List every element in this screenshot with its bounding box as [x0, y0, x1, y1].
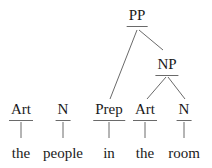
node-pp: PP [127, 7, 148, 27]
node-n2: N [177, 101, 192, 121]
node-n2-label: N [177, 101, 192, 121]
node-np-label: NP [155, 56, 178, 76]
node-n1: N [56, 101, 71, 121]
word-in: in [103, 145, 115, 161]
node-art2-label: Art [133, 101, 157, 121]
node-art1-label: Art [9, 101, 33, 121]
word-room: room [168, 145, 200, 161]
edge-pp-np [139, 30, 163, 50]
node-prep-label: Prep [93, 101, 125, 121]
word-the-1: the [12, 145, 30, 161]
edge-np-art2 [147, 77, 166, 99]
node-pp-label: PP [127, 7, 148, 27]
tree-edges [0, 0, 212, 168]
word-the-2: the [136, 145, 154, 161]
edge-pp-prep [110, 30, 137, 99]
node-prep: Prep [93, 101, 125, 121]
node-n1-label: N [56, 101, 71, 121]
node-art2: Art [133, 101, 157, 121]
node-np: NP [155, 56, 178, 76]
edge-np-n2 [168, 77, 185, 99]
word-people: people [43, 145, 83, 161]
node-art1: Art [9, 101, 33, 121]
